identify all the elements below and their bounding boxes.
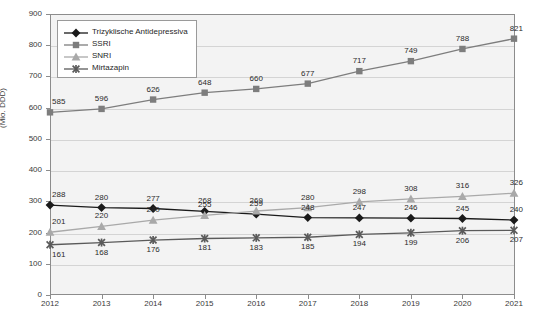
data-label: 207	[510, 235, 523, 244]
data-label: 677	[301, 69, 314, 78]
data-label: 749	[404, 46, 417, 55]
data-label: 185	[301, 242, 314, 251]
data-label: 298	[353, 187, 366, 196]
x-tick-label: 2012	[41, 299, 59, 308]
data-label: 206	[456, 236, 469, 245]
data-label: 181	[198, 243, 211, 252]
data-label: 717	[353, 56, 366, 65]
legend: Trizyklische AntidepressivaSSRISNRIMirta…	[57, 20, 197, 78]
x-tick-label: 2021	[505, 299, 523, 308]
data-label: 585	[52, 97, 65, 106]
x-tick-mark	[308, 295, 309, 299]
gridline	[51, 109, 514, 110]
legend-item-1[interactable]: Trizyklische Antidepressiva	[63, 25, 188, 37]
data-label: 240	[146, 205, 159, 214]
data-label: 248	[301, 203, 314, 212]
data-label: 626	[146, 85, 159, 94]
data-label: 596	[95, 94, 108, 103]
x-tick-mark	[205, 295, 206, 299]
x-tick-mark	[256, 295, 257, 299]
y-tick-label: 500	[16, 134, 42, 143]
gridline	[51, 202, 514, 203]
data-label: 280	[301, 193, 314, 202]
data-label: 788	[456, 34, 469, 43]
y-tick-label: 200	[16, 228, 42, 237]
y-tick-label: 100	[16, 259, 42, 268]
data-label: 255	[198, 200, 211, 209]
y-tick-label: 900	[16, 9, 42, 18]
data-label: 288	[52, 190, 65, 199]
x-tick-mark	[102, 295, 103, 299]
data-label: 821	[510, 24, 523, 33]
x-tick-mark	[514, 295, 515, 299]
legend-marker-triangle-icon	[63, 49, 89, 61]
x-tick-mark	[359, 295, 360, 299]
y-tick-label: 700	[16, 71, 42, 80]
y-tick-label: 0	[16, 290, 42, 299]
x-tick-label: 2016	[247, 299, 265, 308]
data-label: 220	[95, 211, 108, 220]
data-label: 660	[250, 74, 263, 83]
line-chart: (Mio. DDD) 0100200300400500600700800900 …	[0, 0, 544, 324]
y-axis-title: (Mio. DDD)	[0, 88, 7, 128]
data-label: 176	[146, 245, 159, 254]
x-tick-label: 2019	[402, 299, 420, 308]
data-label: 246	[404, 203, 417, 212]
legend-marker-square-icon	[63, 37, 89, 49]
y-tick-mark	[46, 45, 50, 46]
data-label: 308	[404, 184, 417, 193]
y-tick-mark	[46, 76, 50, 77]
data-label: 245	[456, 204, 469, 213]
x-tick-mark	[462, 295, 463, 299]
y-tick-label: 600	[16, 103, 42, 112]
data-label: 183	[250, 243, 263, 252]
gridline	[51, 140, 514, 141]
y-tick-label: 300	[16, 196, 42, 205]
x-tick-label: 2017	[299, 299, 317, 308]
legend-marker-x-icon	[63, 61, 89, 73]
data-label: 316	[456, 181, 469, 190]
gridline	[51, 171, 514, 172]
x-tick-mark	[153, 295, 154, 299]
y-tick-mark	[46, 139, 50, 140]
legend-item-4[interactable]: Mirtazapin	[63, 61, 188, 73]
data-label: 199	[404, 238, 417, 247]
x-tick-label: 2015	[196, 299, 214, 308]
y-tick-mark	[46, 14, 50, 15]
x-tick-mark	[50, 295, 51, 299]
data-label: 280	[95, 193, 108, 202]
gridline	[51, 234, 514, 235]
y-tick-mark	[46, 201, 50, 202]
legend-label: Trizyklische Antidepressiva	[92, 27, 188, 36]
data-label: 326	[510, 178, 523, 187]
data-label: 168	[95, 248, 108, 257]
data-label: 269	[250, 196, 263, 205]
y-tick-mark	[46, 170, 50, 171]
data-label: 648	[198, 78, 211, 87]
legend-label: Mirtazapin	[92, 63, 129, 72]
data-label: 247	[353, 203, 366, 212]
legend-marker-diamond-icon	[63, 25, 89, 37]
y-tick-mark	[46, 264, 50, 265]
gridline	[51, 265, 514, 266]
x-tick-label: 2014	[144, 299, 162, 308]
x-tick-mark	[411, 295, 412, 299]
data-label: 194	[353, 239, 366, 248]
x-tick-label: 2018	[350, 299, 368, 308]
x-tick-label: 2020	[454, 299, 472, 308]
legend-item-2[interactable]: SSRI	[63, 37, 188, 49]
legend-item-3[interactable]: SNRI	[63, 49, 188, 61]
y-tick-label: 800	[16, 40, 42, 49]
data-label: 161	[52, 250, 65, 259]
y-tick-mark	[46, 108, 50, 109]
data-label: 201	[52, 217, 65, 226]
legend-label: SSRI	[92, 39, 111, 48]
legend-label: SNRI	[92, 51, 111, 60]
data-label: 277	[146, 194, 159, 203]
y-tick-label: 400	[16, 165, 42, 174]
y-tick-mark	[46, 233, 50, 234]
x-tick-label: 2013	[93, 299, 111, 308]
data-label: 240	[510, 205, 523, 214]
